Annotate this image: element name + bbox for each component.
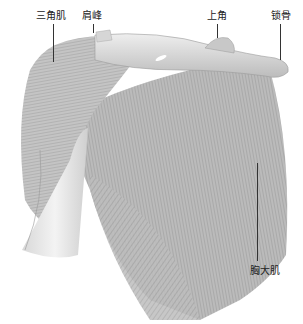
leader-deltoid — [53, 24, 54, 62]
leader-clavicle — [280, 24, 281, 60]
label-deltoid: 三角肌 — [36, 10, 66, 22]
leader-pectoralis-major — [257, 163, 258, 261]
anatomy-figure: 三角肌 肩峰 上角 锁骨 胸大肌 — [0, 0, 303, 324]
leader-acromion — [93, 24, 94, 33]
label-clavicle: 锁骨 — [271, 10, 291, 22]
label-acromion: 肩峰 — [82, 10, 102, 22]
leader-superior-angle — [217, 24, 218, 38]
label-superior-angle: 上角 — [207, 10, 227, 22]
label-pectoralis-major: 胸大肌 — [250, 265, 280, 277]
